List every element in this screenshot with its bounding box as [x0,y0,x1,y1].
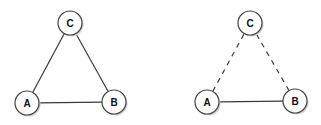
edge-a-c [33,34,65,93]
edge-b-c [76,33,108,91]
edge-b-c-dashed [256,33,289,90]
node-c: C [238,11,264,37]
node-c: C [58,11,84,37]
node-label: B [110,97,117,108]
node-label: A [23,98,30,109]
edge-a-c-dashed [213,34,245,92]
edge-a-b [39,102,102,103]
node-b: B [102,90,128,116]
node-label: C [66,18,73,29]
node-label: B [291,96,298,107]
graph-partial-triangle: ABC [195,11,309,116]
node-a: A [195,90,221,116]
graph-diagram: ABCABC [0,0,321,125]
node-label: A [203,97,210,108]
node-a: A [15,91,41,117]
node-b: B [283,89,309,115]
graph-complete-triangle: ABC [15,11,128,117]
node-label: C [246,18,253,29]
edge-a-b [219,101,283,102]
